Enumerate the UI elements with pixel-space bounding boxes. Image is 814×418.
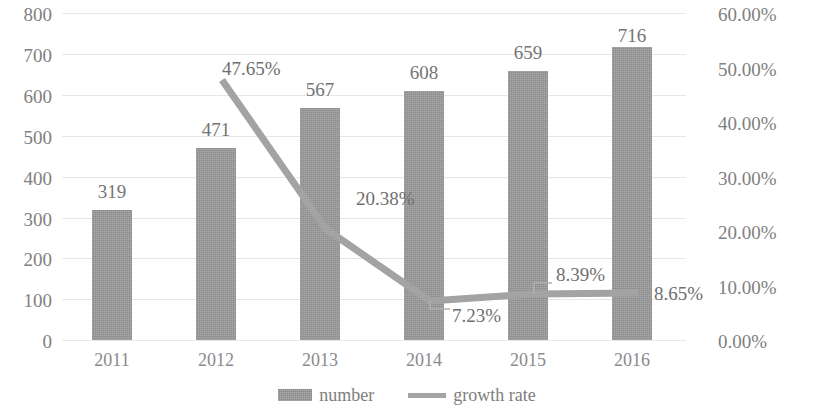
x-axis-label-2013: 2013: [280, 351, 360, 369]
bar-2014[interactable]: [404, 91, 444, 340]
chart-legend: number growth rate: [0, 386, 814, 404]
bar-2012[interactable]: [196, 148, 236, 340]
legend-item-growth-rate[interactable]: growth rate: [408, 386, 535, 404]
y-axis-tick-label: 300: [0, 210, 52, 229]
bar-2016[interactable]: [612, 47, 652, 340]
bar-swatch-icon: [278, 389, 312, 401]
gridline: [62, 340, 686, 341]
y2-axis-tick-label: 0.00%: [718, 332, 808, 351]
x-axis-label-2014: 2014: [384, 351, 464, 369]
y-axis-tick-label: 500: [0, 128, 52, 147]
gridline: [62, 258, 686, 259]
y2-axis-tick-label: 60.00%: [718, 5, 808, 24]
bar-value-2013: 567: [280, 80, 360, 99]
legend-item-number[interactable]: number: [278, 386, 374, 404]
gridline: [62, 13, 686, 14]
rate-label-2015: 8.39%: [556, 265, 605, 284]
bar-value-2012: 471: [176, 120, 256, 139]
y2-axis-tick-label: 50.00%: [718, 60, 808, 79]
gridline: [62, 136, 686, 137]
x-axis-label-2012: 2012: [176, 351, 256, 369]
y2-axis-tick-label: 30.00%: [718, 169, 808, 188]
x-axis-label-2016: 2016: [592, 351, 672, 369]
gridline: [62, 218, 686, 219]
y-axis-tick-label: 100: [0, 291, 52, 310]
rate-label-2012: 47.65%: [222, 59, 281, 78]
bar-value-2016: 716: [592, 26, 672, 45]
y2-axis-tick-label: 10.00%: [718, 278, 808, 297]
bar-value-2014: 608: [384, 63, 464, 82]
bar-value-2011: 319: [72, 182, 152, 201]
chart-container: 800 700 600 500 400 300 200 100 0 60.00%…: [0, 0, 814, 418]
y-axis-tick-label: 700: [0, 46, 52, 65]
rate-label-2013: 20.38%: [356, 189, 415, 208]
rate-label-2016: 8.65%: [654, 284, 703, 303]
bar-2015[interactable]: [508, 71, 548, 340]
x-axis-label-2015: 2015: [488, 351, 568, 369]
y-axis-tick-label: 200: [0, 250, 52, 269]
gridline: [62, 177, 686, 178]
y-axis-tick-label: 400: [0, 169, 52, 188]
y-axis-tick-label: 0: [0, 332, 52, 351]
legend-label-growth-rate: growth rate: [453, 386, 535, 404]
x-axis-label-2011: 2011: [72, 351, 152, 369]
rate-label-2014: 7.23%: [452, 306, 501, 325]
y2-axis-tick-label: 20.00%: [718, 223, 808, 242]
y2-axis-tick-label: 40.00%: [718, 114, 808, 133]
legend-label-number: number: [319, 386, 374, 404]
bar-value-2015: 659: [488, 43, 568, 62]
bar-2013[interactable]: [300, 108, 340, 340]
gridline: [62, 54, 686, 55]
y-axis-tick-label: 800: [0, 5, 52, 24]
line-swatch-icon: [408, 393, 446, 398]
gridline: [62, 299, 686, 300]
gridline: [62, 95, 686, 96]
bar-2011[interactable]: [92, 210, 132, 340]
y-axis-tick-label: 600: [0, 87, 52, 106]
